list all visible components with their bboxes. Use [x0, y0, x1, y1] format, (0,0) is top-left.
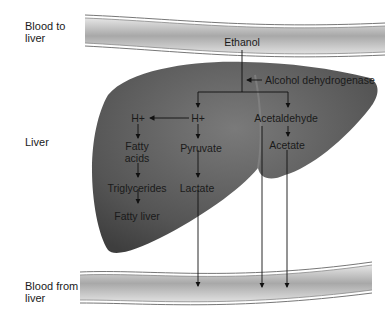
label-line: acids	[125, 152, 150, 164]
diagram-canvas	[0, 0, 390, 317]
label-line: Blood from	[25, 280, 78, 292]
label-line: liver	[25, 32, 65, 44]
node-fatty-acids: Fatty acids	[125, 140, 150, 164]
vessel-from-liver	[80, 262, 372, 305]
node-pyruvate: Pyruvate	[180, 142, 221, 154]
node-h-plus-center: H+	[191, 112, 205, 124]
label-liver: Liver	[25, 136, 49, 148]
label-blood-to-liver: Blood to liver	[25, 20, 65, 44]
node-h-plus-left: H+	[131, 112, 145, 124]
node-acetaldehyde: Acetaldehyde	[254, 112, 318, 124]
label-line: liver	[25, 292, 78, 304]
node-triglycerides: Triglycerides	[107, 182, 166, 194]
node-ethanol: Ethanol	[224, 36, 260, 48]
node-fatty-liver: Fatty liver	[114, 210, 160, 222]
node-alcohol-dehydrogenase: Alcohol dehydrogenase	[265, 74, 375, 86]
label-line: Blood to	[25, 20, 65, 32]
label-blood-from-liver: Blood from liver	[25, 280, 78, 304]
node-acetate: Acetate	[269, 139, 305, 151]
label-line: Fatty	[125, 140, 150, 152]
node-lactate: Lactate	[180, 182, 214, 194]
